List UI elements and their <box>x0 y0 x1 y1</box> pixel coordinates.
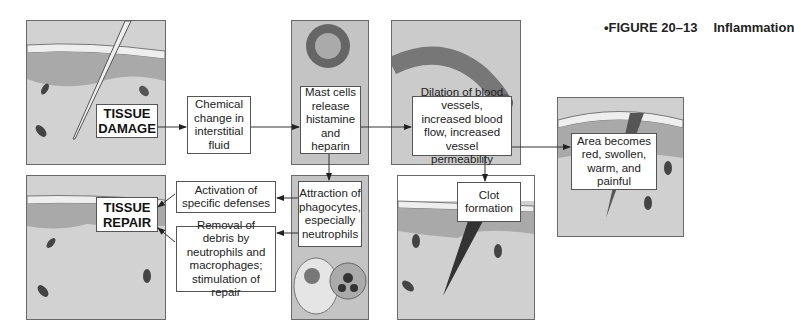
flow-arrows <box>0 0 749 335</box>
